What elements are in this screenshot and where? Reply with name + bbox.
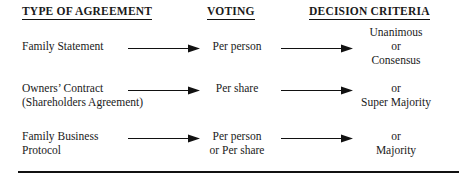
agreement-label-row3: Family Business Protocol [22, 129, 98, 157]
agreement-row3-line1: Family Business [22, 129, 98, 143]
agreement-row2-line2: (Shareholders Agreement) [22, 95, 143, 109]
agreement-label-row1: Family Statement [22, 39, 103, 53]
criteria-label-row1: Unanimous or Consensus [330, 25, 462, 67]
agreement-label-row2: Owners’ Contract (Shareholders Agreement… [22, 81, 143, 109]
voting-label-row1: Per person [180, 39, 294, 53]
column-header-type-of-agreement: TYPE OF AGREEMENT [22, 5, 152, 20]
criteria-label-row2: or Super Majority [330, 81, 462, 109]
criteria-row1-line2: or [330, 39, 462, 53]
voting-row3-line1: Per person [180, 129, 294, 143]
criteria-row2-line3: Super Majority [330, 95, 462, 109]
criteria-row1-line3: Consensus [330, 53, 462, 67]
criteria-row1-line1: Unanimous [330, 25, 462, 39]
voting-label-row2: Per share [180, 81, 294, 95]
criteria-row3-line3: Majority [330, 143, 462, 157]
voting-row2-line1: Per share [180, 81, 294, 95]
criteria-row2-line2: or [330, 81, 462, 95]
column-header-voting: VOTING [207, 5, 255, 20]
criteria-row3-line2: or [330, 129, 462, 143]
agreement-row1-line1: Family Statement [22, 39, 103, 53]
agreement-decision-diagram: TYPE OF AGREEMENT VOTING DECISION CRITER… [0, 0, 471, 178]
bottom-divider-rule [18, 171, 459, 173]
agreement-row3-line2: Protocol [22, 143, 98, 157]
agreement-row2-line1: Owners’ Contract [22, 81, 143, 95]
criteria-label-row3: or Majority [330, 129, 462, 157]
voting-row3-line2: or Per share [180, 143, 294, 157]
voting-row1-line1: Per person [180, 39, 294, 53]
voting-label-row3: Per person or Per share [180, 129, 294, 157]
column-header-decision-criteria: DECISION CRITERIA [309, 5, 430, 20]
